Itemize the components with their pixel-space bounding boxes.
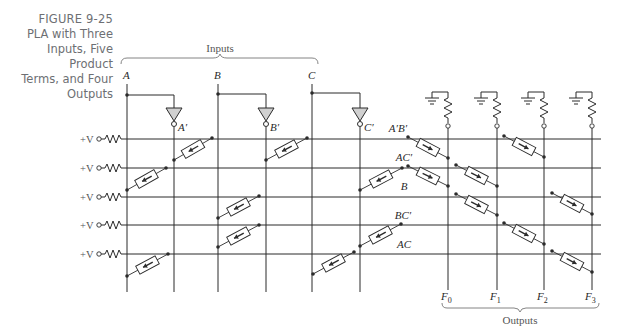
and-array-fuse [358,166,404,192]
or-array-fuse [550,249,594,274]
diode-fuse-icon [369,226,393,244]
label-c-not: C′ [364,121,374,133]
diode-fuse-icon [136,256,160,274]
diode-fuse-icon [369,170,393,188]
pullup-resistor-icon [105,221,121,229]
ground-icon [425,98,439,104]
term-label-ac-not: AC′ [395,151,413,163]
diode-fuse-icon [416,138,440,156]
output-label-f1: F1 [489,290,501,305]
or-array-fuse [454,163,499,188]
or-array-fuse [550,191,594,216]
svg-text:F0: F0 [440,290,452,305]
inputs-label: Inputs [206,42,234,54]
diode-fuse-icon [512,224,536,242]
pla-diagram: Inputs A B C A′ B′ C′ +V+V+V+V+V [0,0,619,334]
input-label-b: B [214,69,221,81]
supply-label: +V [80,192,94,203]
and-array-fuse [264,136,309,162]
pullup-resistor-icon [105,250,121,258]
ground-icon [474,98,488,104]
label-a-not: A′ [177,121,188,133]
input-label-a: A [122,69,130,81]
and-array-fuse [125,166,168,192]
diode-fuse-icon [465,195,489,213]
and-array-fuse [125,252,170,278]
and-array-fuse [216,194,261,220]
output-label-f2: F2 [536,290,548,305]
product-term-rows: +V+V+V+V+V [80,134,601,260]
term-label-bc-not: BC′ [395,209,412,221]
pullup-resistor-icon [105,135,121,143]
label-b-not: B′ [270,121,280,133]
term-label-ac: AC [396,238,412,250]
supply-label: +V [80,220,94,231]
diode-fuse-icon [465,166,489,184]
product-row: +V [80,192,601,203]
diode-fuse-icon [512,137,536,155]
pulldown-resistor-icon [528,92,548,123]
input-wiring [127,84,360,292]
diode-fuse-icon [227,198,251,216]
or-array-fuse [502,134,546,159]
diode-fuse-icon [227,227,251,245]
ground-icon [569,98,583,104]
svg-text:F1: F1 [489,290,501,305]
and-array-fuse [216,223,261,249]
diode-fuse-icon [181,140,205,159]
outputs-label: Outputs [503,314,538,326]
supply-label: +V [80,163,94,174]
diode-fuse-icon [135,170,159,189]
ground-icon [521,98,535,104]
output-label-f3: F3 [584,290,596,305]
input-label-c: C [308,69,316,81]
pullup-resistor-icon [105,193,121,201]
supply-label: +V [80,249,94,260]
output-column [521,92,548,290]
diode-fuse-icon [560,252,584,270]
and-array-fuse [172,136,214,162]
term-label-a-not-b-not: A′B′ [388,122,408,134]
pulldown-resistor-icon [481,92,501,123]
pulldown-resistor-icon [432,92,452,123]
pullup-resistor-icon [105,164,121,172]
output-column [425,92,452,290]
svg-text:F2: F2 [536,290,548,305]
output-label-f0: F0 [440,290,452,305]
or-array-fuse [454,192,499,217]
output-column [474,92,501,290]
inputs-brace: Inputs [121,42,318,64]
term-label-b: B [401,180,408,192]
diode-fuse-icon [322,254,346,272]
svg-text:F3: F3 [584,290,596,305]
outputs-brace: Outputs [442,303,599,326]
pulldown-resistor-icon [576,92,596,123]
diode-fuse-icon [416,167,440,185]
diode-fuse-icon [275,140,299,158]
supply-label: +V [80,134,94,145]
